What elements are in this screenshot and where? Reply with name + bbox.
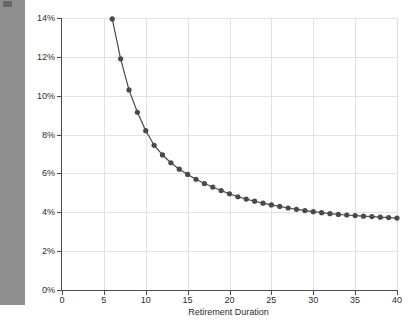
data-point-marker <box>319 210 324 215</box>
chart-figure: Historical SAFEMAX Retirement Duration 0… <box>0 0 414 322</box>
data-point-marker <box>177 167 182 172</box>
data-point-marker <box>286 205 291 210</box>
y-axis-tick-label: 0% <box>42 286 55 295</box>
data-point-marker <box>260 201 265 206</box>
data-point-marker <box>302 208 307 213</box>
y-axis-tick-label: 2% <box>42 247 55 256</box>
data-point-marker <box>193 177 198 182</box>
data-point-marker <box>394 216 399 221</box>
data-point-marker <box>202 181 207 186</box>
data-point-marker <box>219 188 224 193</box>
x-axis-tick-label: 15 <box>183 296 193 305</box>
data-point-marker <box>160 152 165 157</box>
data-point-marker <box>252 199 257 204</box>
data-point-marker <box>244 196 249 201</box>
data-point-marker <box>110 16 115 21</box>
data-point-marker <box>143 128 148 133</box>
series-markers-historical-safemax <box>110 16 400 220</box>
data-point-marker <box>152 143 157 148</box>
data-series-layer <box>62 18 397 290</box>
x-axis-tick-label: 35 <box>350 296 360 305</box>
data-point-marker <box>227 191 232 196</box>
x-axis-tick-label: 40 <box>392 296 402 305</box>
data-point-marker <box>235 194 240 199</box>
data-point-marker <box>118 56 123 61</box>
data-point-marker <box>369 214 374 219</box>
data-point-marker <box>185 172 190 177</box>
y-axis-tick-label: 12% <box>37 52 55 61</box>
x-axis-tick-label: 30 <box>308 296 318 305</box>
x-axis-tick-label: 5 <box>101 296 106 305</box>
data-point-marker <box>311 209 316 214</box>
data-point-marker <box>135 110 140 115</box>
x-axis-tick-label: 10 <box>141 296 151 305</box>
data-point-marker <box>378 215 383 220</box>
data-point-marker <box>336 212 341 217</box>
x-axis-tick-label: 25 <box>266 296 276 305</box>
data-point-marker <box>327 211 332 216</box>
data-point-marker <box>210 184 215 189</box>
data-point-marker <box>361 214 366 219</box>
series-line-historical-safemax <box>112 19 397 218</box>
data-point-marker <box>386 215 391 220</box>
y-axis-tick-label: 8% <box>42 130 55 139</box>
x-axis-title: Retirement Duration <box>61 307 396 317</box>
data-point-marker <box>344 212 349 217</box>
data-point-marker <box>168 160 173 165</box>
gridline-vertical <box>397 18 398 290</box>
screenshot-root: Historical SAFEMAX Retirement Duration 0… <box>0 0 414 322</box>
y-axis-tick-label: 14% <box>37 14 55 23</box>
y-axis-tick-label: 10% <box>37 91 55 100</box>
x-axis-tick-label: 0 <box>59 296 64 305</box>
data-point-marker <box>353 213 358 218</box>
data-point-marker <box>126 87 131 92</box>
data-point-marker <box>269 202 274 207</box>
x-axis-tick-label: 20 <box>224 296 234 305</box>
y-axis-tick-label: 4% <box>42 208 55 217</box>
data-point-marker <box>277 204 282 209</box>
data-point-marker <box>294 207 299 212</box>
y-axis-tick-label: 6% <box>42 169 55 178</box>
plot-area: 0%2%4%6%8%10%12%14%0510152025303540 <box>61 18 397 291</box>
